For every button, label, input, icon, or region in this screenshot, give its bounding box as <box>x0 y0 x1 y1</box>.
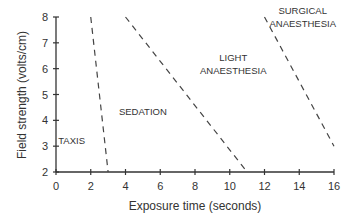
y-axis-label: Field strength (volts/cm) <box>15 31 29 159</box>
boundary-line <box>126 17 248 172</box>
region-label: ANAESTHESIA <box>269 18 336 29</box>
region-label: ANAESTHESIA <box>200 65 267 76</box>
x-tick-label: 14 <box>293 180 305 192</box>
y-tick-label: 2 <box>42 166 48 178</box>
axes: 02468101214162345678 <box>42 11 340 192</box>
x-tick-label: 6 <box>157 180 163 192</box>
region-labels: TAXISSEDATIONLIGHTANAESTHESIASURGICALANA… <box>58 5 336 145</box>
y-tick-label: 5 <box>42 89 48 101</box>
y-tick-label: 6 <box>42 63 48 75</box>
x-tick-label: 10 <box>224 180 236 192</box>
boundary-line <box>91 17 108 172</box>
x-axis-label: Exposure time (seconds) <box>129 199 262 213</box>
region-label: TAXIS <box>58 135 85 146</box>
x-tick-label: 4 <box>122 180 128 192</box>
region-label: SEDATION <box>119 106 167 117</box>
chart: 02468101214162345678 TAXISSEDATIONLIGHTA… <box>0 0 363 222</box>
y-tick-label: 8 <box>42 11 48 23</box>
x-tick-label: 2 <box>88 180 94 192</box>
region-label: SURGICAL <box>278 5 327 16</box>
x-tick-label: 0 <box>53 180 59 192</box>
boundary-lines <box>91 17 334 172</box>
x-tick-label: 16 <box>328 180 340 192</box>
y-tick-label: 4 <box>42 114 48 126</box>
x-tick-label: 12 <box>258 180 270 192</box>
y-tick-label: 7 <box>42 37 48 49</box>
region-label: LIGHT <box>219 52 247 63</box>
x-tick-label: 8 <box>192 180 198 192</box>
y-tick-label: 3 <box>42 140 48 152</box>
boundary-line <box>265 17 335 146</box>
